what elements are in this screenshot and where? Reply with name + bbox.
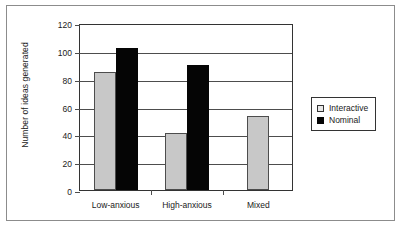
y-axis-tick-label: 40 <box>63 131 72 141</box>
x-axis-tick <box>223 190 224 195</box>
legend-label: Interactive <box>329 103 368 113</box>
bar-interactive-mixed <box>247 116 269 190</box>
bar-nominal-low-anxious <box>116 48 138 190</box>
y-axis-tick-label: 0 <box>67 187 72 197</box>
y-axis-tick-label: 60 <box>63 104 72 114</box>
bar-interactive-low-anxious <box>94 72 116 190</box>
y-axis-tick <box>75 164 80 165</box>
x-axis-tick <box>151 190 152 195</box>
y-axis-title: Number of ideas generated <box>20 25 30 165</box>
y-axis-tick <box>75 192 80 193</box>
y-axis-tick <box>75 109 80 110</box>
legend-item-nominal: Nominal <box>317 114 368 126</box>
x-axis-category-label: High-anxious <box>162 200 212 210</box>
legend-swatch-interactive-icon <box>317 105 324 112</box>
y-axis-tick-label: 80 <box>63 76 72 86</box>
plot-area: 020406080100120 Low-anxiousHigh-anxiousM… <box>79 24 293 191</box>
y-axis-tick-label: 120 <box>58 20 72 30</box>
legend-item-interactive: Interactive <box>317 102 368 114</box>
gridline <box>80 53 292 54</box>
legend-swatch-nominal-icon <box>317 117 324 124</box>
y-axis-tick <box>75 136 80 137</box>
y-axis-tick-label: 20 <box>63 159 72 169</box>
chart-legend: InteractiveNominal <box>311 97 376 131</box>
y-axis-tick-label: 100 <box>58 48 72 58</box>
chart-figure: Number of ideas generated 02040608010012… <box>6 5 395 221</box>
bar-interactive-high-anxious <box>165 133 187 190</box>
bar-nominal-high-anxious <box>187 65 209 190</box>
y-axis-tick <box>75 81 80 82</box>
x-axis-category-label: Mixed <box>247 200 270 210</box>
y-axis-tick <box>75 53 80 54</box>
legend-label: Nominal <box>329 115 360 125</box>
x-axis-category-label: Low-anxious <box>92 200 140 210</box>
y-axis-tick <box>75 25 80 26</box>
